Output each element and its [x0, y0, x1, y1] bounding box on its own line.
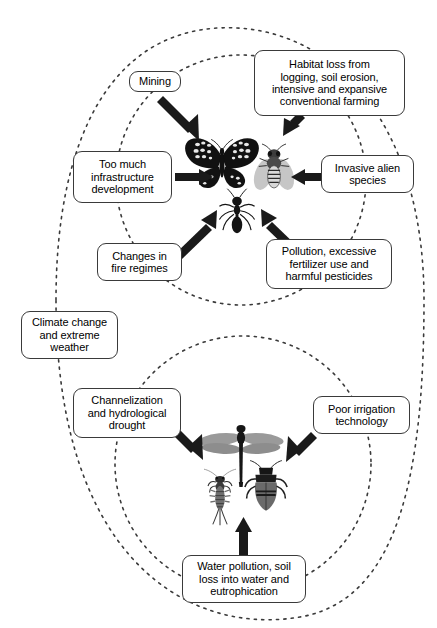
driver-box-climate-change[interactable]: Climate change and extreme weather — [21, 311, 118, 359]
driver-box-infrastructure[interactable]: Too much infrastructure development — [73, 151, 172, 203]
driver-box-invasive-species[interactable]: Invasive alien species — [321, 155, 414, 193]
figure-canvas: Mining Habitat loss from logging, soil e… — [0, 0, 437, 628]
driver-box-mining[interactable]: Mining — [129, 71, 181, 92]
arrow-irrigation-to-insects — [286, 432, 317, 462]
driver-box-water-pollution[interactable]: Water pollution, soil loss into water an… — [182, 555, 306, 603]
arrow-water-pollution-to-insects — [235, 517, 252, 558]
driver-box-habitat-loss[interactable]: Habitat loss from logging, soil erosion,… — [254, 50, 405, 116]
arrow-invasive-species-to-insects — [291, 169, 321, 185]
driver-box-fire-regimes[interactable]: Changes in fire regimes — [97, 243, 182, 281]
driver-box-poor-irrigation[interactable]: Poor irrigation technology — [313, 396, 410, 434]
mayfly-nymph-icon — [204, 469, 236, 525]
water-beetle-icon — [245, 461, 287, 511]
arrow-mining-to-insects — [157, 96, 199, 141]
arrow-fire-regimes-to-insects — [176, 210, 217, 259]
ant-icon — [219, 189, 254, 233]
driver-box-channelization[interactable]: Channelization and hydrological drought — [73, 388, 181, 438]
driver-box-pollution-pesticides[interactable]: Pollution, excessive fertilizer use and … — [266, 239, 392, 289]
